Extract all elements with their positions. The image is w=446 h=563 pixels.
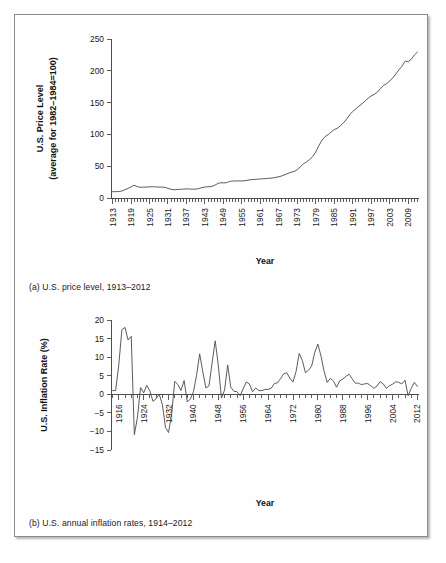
x-tick-label: 1925	[145, 208, 155, 227]
x-tick-label: 1985	[329, 208, 339, 227]
x-tick-label: 1931	[163, 208, 173, 227]
x-tick-label: 1948	[213, 404, 223, 423]
x-tick-label: 1961	[255, 208, 265, 227]
x-tick-label: 1940	[188, 404, 198, 423]
x-tick-label: 1973	[292, 208, 302, 227]
y-tick-label: −10	[90, 426, 105, 436]
svg-text:(average for 1982–1984=100): (average for 1982–1984=100)	[48, 57, 58, 179]
x-tick-label: 1913	[108, 208, 118, 227]
price-level-plot: 0501001502002501913191919251931193719431…	[15, 19, 429, 279]
y-tick-label: 5	[99, 371, 104, 381]
figure-frame: 0501001502002501913191919251931193719431…	[14, 14, 428, 537]
x-tick-label: 1996	[363, 404, 373, 423]
x-tick-label: 1937	[181, 208, 191, 227]
x-tick-label: 1972	[288, 404, 298, 423]
x-tick-label: 1988	[338, 404, 348, 423]
y-tick-label: 0	[99, 193, 104, 203]
chart-panel-inflation-rate: −15−10−505101520191619241932194019481956…	[15, 304, 429, 536]
y-tick-label: 0	[99, 389, 104, 399]
x-tick-label: 1949	[218, 208, 228, 227]
y-tick-label: −5	[94, 408, 104, 418]
caption-b: (b) U.S. annual inflation rates, 1914–20…	[29, 518, 192, 528]
x-tick-label: 1924	[139, 404, 149, 423]
x-tick-label: 1964	[263, 404, 273, 423]
x-axis-title: Year	[256, 256, 275, 266]
caption-a: (a) U.S. price level, 1913–2012	[29, 282, 151, 292]
x-tick-label: 1955	[237, 208, 247, 227]
x-tick-label: 2012	[412, 404, 422, 423]
y-tick-label: 50	[95, 161, 105, 171]
y-axis-title: U.S. Price Level(average for 1982–1984=1…	[35, 57, 58, 179]
x-tick-label: 1956	[238, 404, 248, 423]
x-tick-label: 1919	[126, 208, 136, 227]
x-tick-label: 2004	[388, 404, 398, 423]
y-tick-label: 200	[90, 66, 104, 76]
x-tick-label: 1916	[114, 404, 124, 423]
x-axis-title: Year	[256, 498, 275, 508]
x-tick-label: 2003	[385, 208, 395, 227]
x-tick-label: 1980	[313, 404, 323, 423]
x-tick-label: 1997	[366, 208, 376, 227]
y-tick-label: −15	[90, 445, 105, 455]
x-tick-label: 1991	[348, 208, 358, 227]
y-axis-title: U.S. Inflation Rate (%)	[39, 338, 49, 432]
y-tick-label: 20	[95, 315, 105, 325]
y-tick-label: 100	[90, 129, 104, 139]
x-tick-label: 1967	[274, 208, 284, 227]
x-tick-label: 1943	[200, 208, 210, 227]
chart-panel-price-level: 0501001502002501913191919251931193719431…	[15, 19, 429, 304]
y-tick-label: 15	[95, 334, 105, 344]
svg-text:U.S. Price Level: U.S. Price Level	[35, 85, 45, 153]
y-tick-label: 250	[90, 34, 104, 44]
x-tick-label: 2009	[403, 208, 413, 227]
x-tick-label: 1979	[311, 208, 321, 227]
y-tick-label: 10	[95, 352, 105, 362]
price-level-series	[113, 52, 418, 192]
inflation-rate-plot: −15−10−505101520191619241932194019481956…	[15, 304, 429, 516]
y-tick-label: 150	[90, 98, 104, 108]
